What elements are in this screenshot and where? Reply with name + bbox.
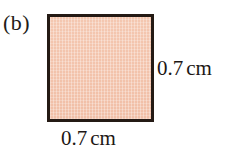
figure-canvas: (b) 0.7cm 0.7cm	[0, 0, 231, 153]
dimension-bottom-value: 0.7	[61, 126, 87, 150]
square-shape	[47, 14, 154, 122]
dimension-label-bottom: 0.7cm	[61, 128, 116, 149]
dimension-label-right: 0.7cm	[157, 58, 212, 79]
figure-label: (b)	[3, 12, 30, 34]
dimension-right-value: 0.7	[157, 56, 183, 80]
dimension-bottom-unit: cm	[90, 126, 116, 150]
dimension-right-unit: cm	[186, 56, 212, 80]
